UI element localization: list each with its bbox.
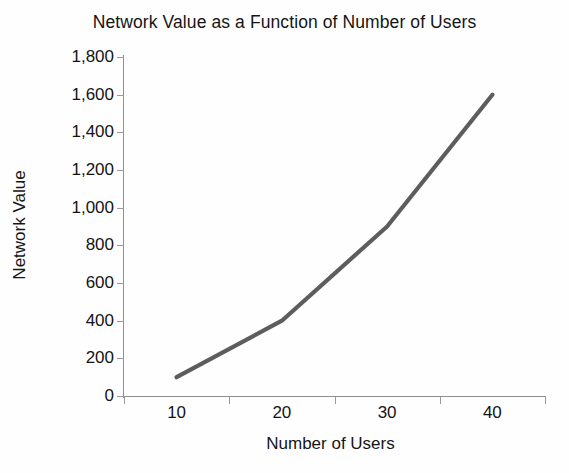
x-axis-tick xyxy=(335,397,336,404)
y-axis-tick xyxy=(117,208,124,209)
y-axis-tick-label: 0 xyxy=(105,387,114,404)
y-axis-tick xyxy=(117,358,124,359)
y-axis-tick xyxy=(117,283,124,284)
y-axis-tick xyxy=(117,170,124,171)
y-axis-tick xyxy=(117,396,124,397)
y-axis-tick xyxy=(117,321,124,322)
y-axis-tick xyxy=(117,95,124,96)
y-axis-tick-label: 1,000 xyxy=(71,199,114,216)
chart-title: Network Value as a Function of Number of… xyxy=(0,12,569,33)
x-axis-tick xyxy=(440,397,441,404)
x-axis-tick xyxy=(124,397,125,404)
x-axis-tick xyxy=(229,397,230,404)
y-axis-title: Network Value xyxy=(10,215,30,235)
y-axis-tick-label: 400 xyxy=(86,312,114,329)
y-axis-tick-label: 200 xyxy=(86,349,114,366)
y-axis-tick xyxy=(117,245,124,246)
y-axis-tick-label: 800 xyxy=(86,236,114,253)
y-axis-tick-label: 1,800 xyxy=(71,48,114,65)
x-axis-tick xyxy=(545,397,546,404)
series-line-network-value xyxy=(177,95,493,378)
y-axis-tick-label: 1,400 xyxy=(71,123,114,140)
x-axis-title: Number of Users xyxy=(113,434,548,454)
x-axis-tick-label: 40 xyxy=(452,403,532,423)
y-axis-tick xyxy=(117,57,124,58)
x-axis-tick-label: 20 xyxy=(242,403,322,423)
x-axis-tick-label: 10 xyxy=(137,403,217,423)
y-axis-line xyxy=(123,55,124,398)
chart-container: Network Value as a Function of Number of… xyxy=(0,0,569,473)
y-axis-tick-label: 600 xyxy=(86,274,114,291)
y-axis-tick xyxy=(117,132,124,133)
x-axis-tick-label: 30 xyxy=(347,403,427,423)
y-axis-tick-label: 1,600 xyxy=(71,86,114,103)
y-axis-tick-label: 1,200 xyxy=(71,161,114,178)
